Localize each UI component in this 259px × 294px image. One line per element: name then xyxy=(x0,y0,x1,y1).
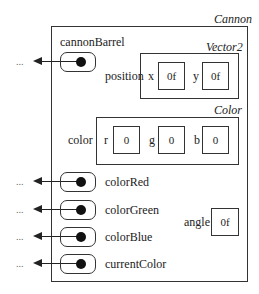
cannon-barrel-label: cannonBarrel xyxy=(60,36,125,48)
pointer-dot-icon xyxy=(76,205,86,215)
color-green-reference[interactable] xyxy=(60,200,96,220)
color-g-label: g xyxy=(149,134,155,146)
color-r-label: r xyxy=(104,134,108,146)
arrow-left-icon xyxy=(33,232,42,240)
cannon-barrel-reference[interactable] xyxy=(60,52,96,72)
color-label: color xyxy=(68,134,93,146)
arrow-left-icon xyxy=(33,177,42,185)
current-color-label: currentColor xyxy=(105,258,166,270)
color-red-target: ... xyxy=(16,176,24,187)
color-red-reference[interactable] xyxy=(60,172,96,192)
pointer-dot-icon xyxy=(76,232,86,242)
pointer-dot-icon xyxy=(76,259,86,269)
position-label: position xyxy=(105,70,144,82)
pointer-dot-icon xyxy=(76,177,86,187)
vector2-type-label: Vector2 xyxy=(206,41,243,53)
position-x-value[interactable]: 0f xyxy=(158,62,185,90)
arrow-left-icon xyxy=(33,205,42,213)
angle-value[interactable]: 0f xyxy=(211,208,239,236)
color-r-value[interactable]: 0 xyxy=(113,126,140,154)
current-color-reference[interactable] xyxy=(60,254,96,274)
position-y-value[interactable]: 0f xyxy=(202,62,229,90)
color-green-target: ... xyxy=(16,204,24,215)
arrow-left-icon xyxy=(33,57,42,65)
pointer-dot-icon xyxy=(76,57,86,67)
cannon-barrel-target: ... xyxy=(16,56,24,67)
color-b-label: b xyxy=(194,134,200,146)
color-b-value[interactable]: 0 xyxy=(202,126,229,154)
color-blue-label: colorBlue xyxy=(105,231,152,243)
position-x-label: x xyxy=(148,70,154,82)
arrow-left-icon xyxy=(33,259,42,267)
color-blue-target: ... xyxy=(16,231,24,242)
color-green-label: colorGreen xyxy=(105,204,159,216)
angle-label: angle xyxy=(184,216,210,228)
color-blue-reference[interactable] xyxy=(60,227,96,247)
position-y-label: y xyxy=(193,70,199,82)
current-color-target: ... xyxy=(16,258,24,269)
color-red-label: colorRed xyxy=(105,176,149,188)
cannon-type-label: Cannon xyxy=(214,13,252,25)
color-g-value[interactable]: 0 xyxy=(158,126,185,154)
color-type-label: Color xyxy=(214,104,242,116)
